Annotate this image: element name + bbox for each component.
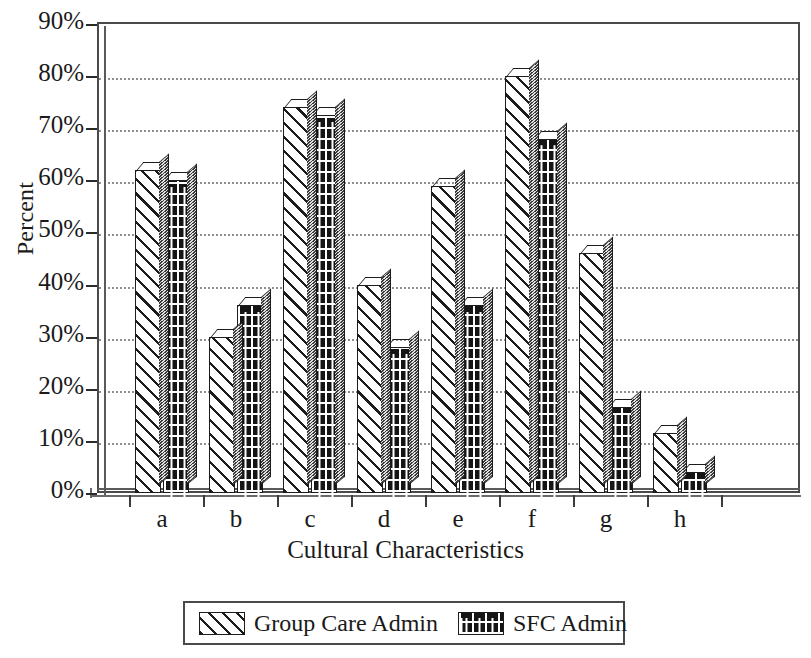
y-axis-tick-label: 0%: [8, 477, 84, 502]
y-axis-tick-label: 50%: [8, 216, 84, 241]
legend-swatch-brick-icon: [458, 612, 504, 635]
bar-side-face: [381, 268, 391, 485]
bar-chart: Percent 0%10%20%30%40%50%60%70%80%90% ab…: [0, 0, 811, 658]
bar: [283, 107, 309, 493]
bar-side-face: [483, 289, 493, 485]
y-axis-tick-label: 10%: [8, 425, 84, 450]
y-axis-tick-label: 80%: [8, 60, 84, 85]
bar-side-face: [705, 456, 715, 485]
bar: [431, 186, 457, 493]
x-axis-tick-mark: [351, 495, 353, 507]
y-axis-tick-mark: [86, 76, 97, 78]
x-axis-title: Cultural Characteristics: [0, 536, 811, 564]
x-axis-tick-label: d: [354, 505, 414, 533]
bars-layer: [104, 24, 800, 493]
y-axis-tick-label: 90%: [8, 8, 84, 33]
bar-side-face: [159, 154, 169, 485]
x-axis-tick-mark: [129, 495, 131, 507]
legend-label: SFC Admin: [513, 611, 627, 635]
x-axis-tick-mark: [573, 495, 575, 507]
bar-side-face: [409, 331, 419, 485]
x-axis-tick-label: a: [132, 505, 192, 533]
bar-side-face: [335, 99, 345, 485]
y-axis-tick-label: 70%: [8, 112, 84, 137]
bar-side-face: [187, 164, 197, 485]
legend-swatch-hatch-icon: [199, 612, 245, 635]
bar: [579, 253, 605, 493]
bar: [135, 170, 161, 493]
bar-side-face: [603, 237, 613, 485]
x-axis-tick-label: e: [428, 505, 488, 533]
y-axis-tick-mark: [86, 180, 97, 182]
y-axis-tick-label: 20%: [8, 373, 84, 398]
y-axis-tick-label: 40%: [8, 269, 84, 294]
bar: [653, 433, 679, 493]
x-axis-tick-mark: [499, 495, 501, 507]
y-axis-tick-mark: [86, 128, 97, 130]
bar-side-face: [455, 169, 465, 485]
legend-entry: Group Care Admin: [199, 611, 438, 635]
x-axis-tick-label: h: [650, 505, 710, 533]
bar: [357, 285, 383, 493]
x-axis-tick-label: c: [280, 505, 340, 533]
plot-frame-floor-front: [90, 495, 801, 497]
y-axis-tick-mark: [86, 337, 97, 339]
bar-side-face: [307, 91, 317, 485]
y-axis-tick-label: 60%: [8, 164, 84, 189]
x-axis-tick-label: g: [576, 505, 636, 533]
chart-legend: Group Care AdminSFC Admin: [183, 601, 625, 645]
x-axis-tick-mark: [203, 495, 205, 507]
bar-side-face: [631, 391, 641, 485]
legend-label: Group Care Admin: [254, 611, 438, 635]
bar: [209, 337, 235, 493]
legend-entry: SFC Admin: [458, 611, 627, 635]
x-axis-tick-mark: [425, 495, 427, 507]
bar-side-face: [261, 289, 271, 485]
y-axis-tick-mark: [86, 493, 97, 495]
x-axis-tick-mark: [647, 495, 649, 507]
x-axis-tick-mark: [721, 495, 723, 507]
x-axis-tick-mark: [277, 495, 279, 507]
y-axis-tick-mark: [86, 441, 97, 443]
bar-side-face: [529, 60, 539, 485]
y-axis-tick-label: 30%: [8, 321, 84, 346]
bar-side-face: [677, 417, 687, 485]
y-axis-tick-mark: [86, 285, 97, 287]
bar-side-face: [557, 122, 567, 485]
bar: [505, 76, 531, 493]
y-axis-tick-mark: [86, 232, 97, 234]
y-axis-tick-mark: [86, 24, 97, 26]
plot-area: [104, 24, 800, 493]
x-axis-tick-label: f: [502, 505, 562, 533]
x-axis-tick-label: b: [206, 505, 266, 533]
bar-side-face: [233, 320, 243, 485]
y-axis-tick-mark: [86, 389, 97, 391]
